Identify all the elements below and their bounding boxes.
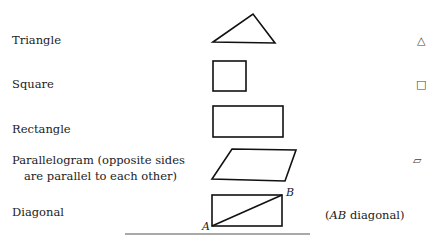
rectangle-figure bbox=[213, 106, 283, 137]
square-symbol-icon: □ bbox=[416, 78, 426, 91]
point-b-label: B bbox=[286, 186, 294, 199]
diagonal-line bbox=[212, 195, 282, 226]
diagonal-note: (AB diagonal) bbox=[325, 208, 405, 222]
point-a-label: A bbox=[202, 220, 210, 233]
triangle-symbol-icon: △ bbox=[417, 34, 425, 47]
square-figure bbox=[213, 61, 246, 91]
triangle-figure bbox=[213, 14, 275, 43]
parallelogram-figure bbox=[212, 149, 296, 181]
geometry-figures bbox=[0, 0, 443, 237]
note-rest: diagonal) bbox=[346, 208, 404, 222]
parallelogram-symbol-icon: ▱ bbox=[413, 154, 421, 167]
note-ab: AB bbox=[330, 208, 347, 222]
